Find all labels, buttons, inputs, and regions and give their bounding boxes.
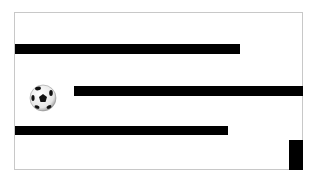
soccer-ball-icon[interactable] bbox=[29, 84, 57, 112]
goal-block bbox=[289, 140, 303, 170]
wall-bar-2 bbox=[74, 86, 303, 96]
wall-bar-1 bbox=[15, 44, 240, 54]
wall-bar-3 bbox=[15, 126, 228, 135]
